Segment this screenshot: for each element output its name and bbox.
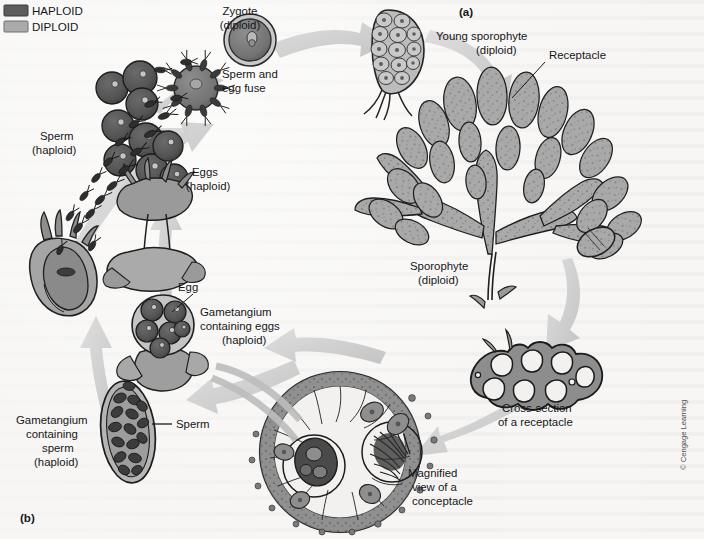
label-gametangium-sperm-line1: Gametangium xyxy=(16,414,88,426)
label-sperm-haploid-line2: (haploid) xyxy=(32,144,77,156)
label-gametangium-eggs-line3: (haploid) xyxy=(222,334,267,346)
young-sporophyte-embryo xyxy=(364,10,424,120)
label-gametangium-sperm-line2: containing xyxy=(26,428,78,440)
label-eggs-haploid-line2: (haploid) xyxy=(186,180,231,192)
legend-label-haploid: HAPLOID xyxy=(32,4,83,17)
label-magnified-line2: view of a xyxy=(412,481,458,493)
gametangium-containing-eggs xyxy=(117,295,209,391)
legend-swatch-haploid xyxy=(4,5,28,16)
label-zygote-line2: (diploid) xyxy=(220,19,261,31)
panel-label-a: (a) xyxy=(459,5,473,18)
legend-label-diploid: DIPLOID xyxy=(32,20,78,33)
copyright-notice: © Cengage Learning xyxy=(679,400,688,470)
legend: HAPLOID DIPLOID xyxy=(4,4,83,33)
label-eggs-haploid-line1: Eggs xyxy=(192,166,218,178)
adult-sporophyte-thallus xyxy=(355,66,646,308)
panel-label-b: (b) xyxy=(20,511,35,524)
label-sporophyte-line2: (diploid) xyxy=(418,274,459,286)
label-gametangium-sperm-line3: sperm xyxy=(42,442,74,454)
fucus-life-cycle-illustration: HAPLOID DIPLOID (a) (b) Zygote (diploid)… xyxy=(0,0,704,539)
figure-canvas: HAPLOID DIPLOID (a) (b) Zygote (diploid)… xyxy=(0,0,704,539)
label-magnified-line1: Magnified xyxy=(408,467,457,479)
label-gametangium-eggs-line2: containing eggs xyxy=(200,320,280,332)
arrow-sporophyte-to-cross-section xyxy=(546,258,580,352)
released-eggs-cluster xyxy=(96,61,188,192)
arrow-conceptacle-to-egg-gametangium xyxy=(264,328,386,364)
label-gametangium-eggs-line1: Gametangium xyxy=(200,306,272,318)
label-cross-section-line2: of a receptacle xyxy=(498,416,573,428)
legend-swatch-diploid xyxy=(4,21,28,32)
label-sperm-haploid-line1: Sperm xyxy=(40,130,74,142)
label-young-sporophyte-line2: (diploid) xyxy=(476,44,517,56)
label-sperm: Sperm xyxy=(176,418,210,430)
label-egg: Egg xyxy=(178,281,198,293)
label-gametangium-sperm-line4: (haploid) xyxy=(34,456,79,468)
label-receptacle: Receptacle xyxy=(549,49,606,61)
label-sporophyte-line1: Sporophyte xyxy=(410,260,468,272)
receptacle-cross-section xyxy=(471,330,602,410)
label-magnified-line3: conceptacle xyxy=(412,495,473,507)
label-zygote-line1: Zygote xyxy=(223,5,258,17)
label-sperm-egg-fuse-line2: egg fuse xyxy=(222,82,266,94)
label-sperm-egg-fuse-line1: Sperm and xyxy=(222,68,278,80)
label-young-sporophyte-line1: Young sporophyte xyxy=(436,30,527,42)
label-cross-section-line1: Cross-section xyxy=(502,402,572,414)
